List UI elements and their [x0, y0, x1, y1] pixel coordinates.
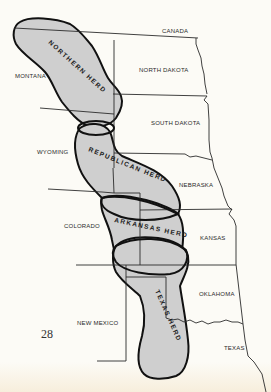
label-texas: TEXAS	[224, 345, 245, 351]
oklahoma-east-border	[236, 264, 243, 324]
page-number: 28	[41, 327, 53, 341]
texas-herd-range	[113, 237, 189, 379]
label-nebraska: NEBRASKA	[179, 182, 213, 188]
nd-sd-border	[113, 94, 207, 96]
kansas-east-border	[229, 209, 236, 264]
label-wyoming: WYOMING	[37, 149, 69, 155]
herd-map: CANADA MONTANA NORTH DAKOTA SOUTH DAKOTA…	[0, 0, 271, 392]
north-dakota-east-border	[196, 38, 207, 94]
label-canada: CANADA	[162, 28, 188, 34]
nebraska-east-border	[212, 158, 232, 210]
texas-east-border	[243, 324, 266, 392]
label-north-dakota: NORTH DAKOTA	[139, 67, 189, 73]
label-colorado: COLORADO	[64, 223, 100, 229]
label-montana: MONTANA	[15, 73, 46, 79]
label-oklahoma: OKLAHOMA	[199, 291, 235, 297]
label-new-mexico: NEW MEXICO	[77, 320, 118, 326]
label-south-dakota: SOUTH DAKOTA	[151, 120, 200, 126]
south-dakota-east-border	[204, 96, 212, 158]
label-kansas: KANSAS	[200, 235, 226, 241]
